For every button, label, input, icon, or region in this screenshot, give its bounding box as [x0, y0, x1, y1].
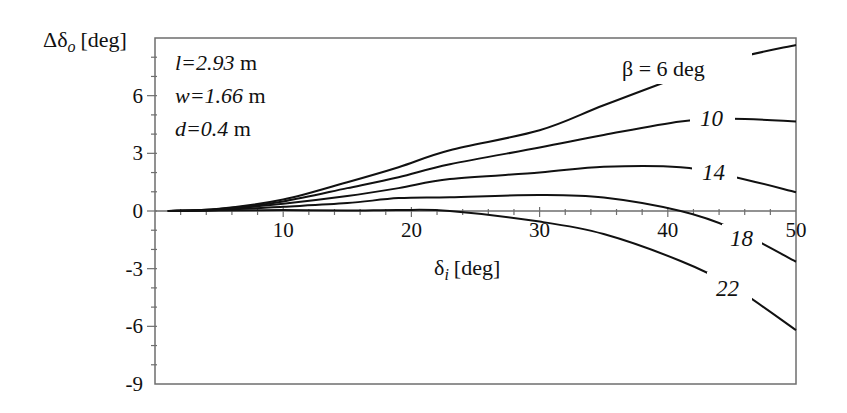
x-tick-label: 20: [401, 218, 422, 242]
y-tick-label: -3: [126, 257, 144, 281]
annotation-w: w=1.66 m: [175, 83, 266, 108]
x-tick-label: 40: [657, 218, 678, 242]
x-tick-label: 10: [273, 218, 294, 242]
y-tick-labels: 630-3-6-9: [126, 84, 144, 396]
curve-label-22: 22: [716, 276, 739, 301]
x-tick-label: 50: [786, 218, 807, 242]
curve-label-14: 14: [702, 160, 725, 185]
annotation-d: d=0.4 m: [175, 116, 251, 141]
y-tick-label: 6: [133, 84, 144, 108]
y-tick-label: -6: [126, 314, 144, 338]
y-tick-label: -9: [126, 372, 144, 396]
curve-label-18: 18: [730, 226, 754, 251]
x-axis-title: δi[deg]: [434, 255, 500, 283]
chart: 630-3-6-9 1020304050 Δδo[deg] δi[deg] l=…: [0, 0, 847, 413]
curve-label-10: 10: [700, 106, 724, 131]
y-axis-title: Δδo[deg]: [43, 27, 127, 55]
annotation-l: l=2.93 m: [175, 50, 257, 75]
y-tick-label: 0: [133, 199, 144, 223]
y-tick-label: 3: [133, 141, 144, 165]
parameter-annotations: l=2.93 mw=1.66 md=0.4 m: [175, 50, 266, 141]
curve-label-beta-6: β = 6 deg: [622, 56, 705, 81]
